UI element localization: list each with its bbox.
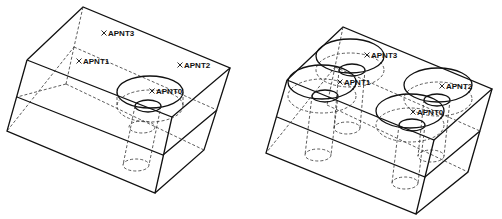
point-label: APNT2 [446, 82, 473, 91]
left-mid-line [17, 97, 217, 155]
right-hole0-l [392, 125, 399, 183]
point-label: APNT3 [371, 51, 398, 60]
left-hole-bottom [123, 159, 149, 171]
right-hidden-vertical [266, 27, 343, 153]
point-marker-apnt3: APNT3 [102, 29, 135, 38]
left-hidden-edge2 [17, 84, 66, 97]
point-marker-apnt1: APNT1 [338, 78, 371, 87]
point-label: APNT1 [344, 78, 371, 87]
left-hole-side-l [123, 106, 135, 165]
point-label: APNT0 [156, 87, 183, 96]
right-hole1-bottom [305, 149, 331, 161]
point-marker-apnt0: APNT0 [150, 87, 183, 96]
drawing-canvas: APNT3APNT1APNT2APNT0APNT3APNT1APNT2APNT0 [0, 0, 502, 219]
left-hole-top [135, 100, 161, 112]
point-label: APNT1 [83, 57, 110, 66]
right-hole3-bottom [334, 122, 360, 134]
right-hole1-l [305, 96, 312, 155]
point-marker-apnt2: APNT2 [440, 82, 473, 91]
point-marker-apnt0: APNT0 [411, 108, 444, 117]
left-hidden-vertical [7, 7, 83, 131]
point-label: APNT2 [184, 61, 211, 70]
point-label: APNT0 [417, 108, 444, 117]
right-hole0-bottom [392, 177, 418, 189]
point-marker-apnt3: APNT3 [365, 51, 398, 60]
point-label: APNT3 [108, 29, 135, 38]
point-marker-apnt1: APNT1 [77, 57, 110, 66]
left-hole-side-r [149, 106, 161, 165]
point-marker-apnt2: APNT2 [178, 61, 211, 70]
left-hole-mid [129, 121, 155, 133]
